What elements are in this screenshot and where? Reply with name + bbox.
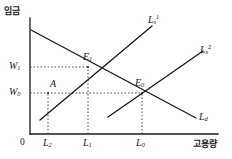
marker-a bbox=[47, 92, 49, 94]
y-tick-w1: W1 bbox=[9, 61, 21, 72]
y-axis-title: 임금 bbox=[4, 7, 20, 16]
curves bbox=[31, 26, 203, 120]
equilibrium-1-label: E1 bbox=[83, 52, 92, 63]
labor-demand-sub: d bbox=[205, 115, 208, 122]
equilibrium-0-label: E0 bbox=[135, 78, 144, 89]
point-a-label: A bbox=[50, 79, 56, 89]
labor-supply-2-label: Ls2 bbox=[200, 44, 211, 55]
labor-demand-curve bbox=[31, 30, 196, 118]
x-axis-title: 고용량 bbox=[193, 140, 216, 149]
guide-lines bbox=[30, 67, 142, 134]
chart-canvas bbox=[0, 0, 232, 159]
marker-e0 bbox=[141, 92, 143, 94]
labor-supply-1-sup: 1 bbox=[156, 13, 159, 20]
x-tick-l2-sub: 2 bbox=[49, 141, 52, 148]
labor-demand-label: Ld bbox=[199, 112, 208, 123]
y-tick-w0-sub: 0 bbox=[17, 90, 20, 97]
axis-lines bbox=[30, 18, 218, 134]
x-tick-l1: L1 bbox=[83, 138, 92, 149]
labor-supply-2-curve bbox=[108, 51, 203, 117]
origin-label: 0 bbox=[20, 138, 25, 148]
marker-e1 bbox=[87, 66, 89, 68]
labor-supply-2-sup: 2 bbox=[208, 43, 211, 50]
x-tick-l0: L0 bbox=[136, 138, 145, 149]
equilibrium-0-sub: 0 bbox=[141, 81, 144, 88]
y-tick-w1-sub: 1 bbox=[17, 64, 20, 71]
equilibrium-1-sub: 1 bbox=[89, 55, 92, 62]
x-tick-l1-sub: 1 bbox=[89, 141, 92, 148]
labor-supply-1-label: Ls1 bbox=[148, 14, 159, 25]
y-tick-w0: W0 bbox=[9, 87, 21, 98]
intersection-markers bbox=[47, 66, 143, 94]
x-tick-l0-sub: 0 bbox=[142, 141, 145, 148]
labor-supply-1-curve bbox=[40, 26, 152, 120]
labor-market-figure: 임금 고용량 0 W1 W0 L2 L1 L0 Ls1 Ls2 Ld E1 E0… bbox=[0, 0, 232, 159]
x-tick-l2: L2 bbox=[43, 138, 52, 149]
